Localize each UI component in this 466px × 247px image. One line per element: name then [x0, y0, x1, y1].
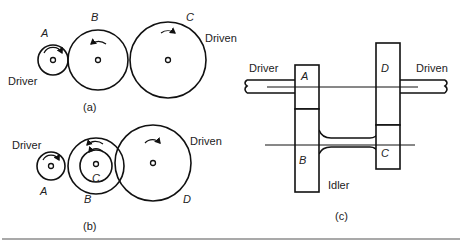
caption-c: (c): [335, 210, 348, 222]
gear-b-label-b: B: [84, 193, 91, 205]
driven-label-c: Driven: [416, 62, 448, 74]
gear-d-label-c: D: [381, 62, 389, 74]
caption-a: (a): [83, 101, 96, 113]
gear-a-label-c: A: [300, 70, 308, 82]
idler-label: Idler: [328, 179, 350, 191]
gear-b-label-c: B: [299, 154, 306, 166]
driver-label-a: Driver: [8, 75, 38, 87]
gear-a-label-b: A: [39, 185, 47, 197]
gear-train-diagram: A B C Driver Driven (a) Driver Driven A …: [0, 0, 466, 247]
gear-a-label: A: [40, 27, 48, 39]
gear-a-circle: [38, 45, 68, 75]
gear-c-label: C: [186, 11, 194, 23]
driven-label-a: Driven: [205, 32, 237, 44]
gear-c-label-b: C: [92, 172, 100, 184]
figure-a: [38, 22, 206, 98]
gear-c-circle: [130, 22, 206, 98]
driver-label-b: Driver: [12, 139, 42, 151]
caption-b: (b): [83, 220, 96, 232]
driver-label-c: Driver: [249, 62, 279, 74]
gear-b-circle: [68, 30, 128, 90]
gear-b-label: B: [91, 11, 98, 23]
gear-d-label-b: D: [183, 193, 191, 205]
driven-label-b: Driven: [190, 135, 222, 147]
gear-c-label-c: C: [381, 147, 389, 159]
figure-b: [37, 125, 191, 201]
